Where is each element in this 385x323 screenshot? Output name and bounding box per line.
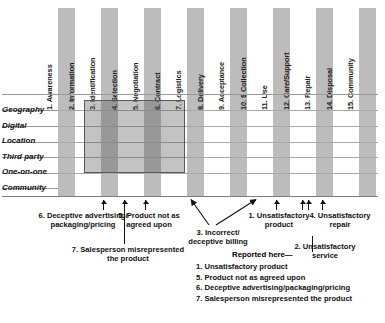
column-label: 2. Information [63, 10, 80, 112]
legend-item: 6. Deceptive advertising/packaging/prici… [196, 283, 382, 294]
column-label: 1. Awareness [41, 10, 58, 112]
column-label: 6. Contract [149, 10, 166, 112]
legend-item: 1. Unsatisfactory product [196, 262, 382, 273]
column-label: 11. Use [256, 10, 273, 112]
row-divider [2, 94, 378, 95]
column-label: 3. Identification [84, 10, 101, 112]
row-label-group: Geography Digital Location Third party O… [2, 102, 58, 196]
legend-item: 5. Product not as agreed upon [196, 273, 382, 284]
legend-item: 7. Salesperson misrepresented the produc… [196, 294, 382, 305]
column-label: 4. Selection [106, 10, 123, 112]
column-label: 7. Logistics [170, 10, 187, 112]
callout-5: 5. Product not as agreed upon [110, 211, 188, 230]
row-label-community: Community [2, 180, 58, 196]
callout-4: 4. Unsatisfactory repair [303, 211, 377, 230]
row-label-geography: Geography [2, 102, 58, 118]
callout-7: 7. Salesperson misrepresented the produc… [48, 245, 208, 264]
reported-legend: 1. Unsatisfactory product 5. Product not… [196, 262, 382, 304]
reported-connector [312, 236, 313, 252]
column-label: 8. Delivery [192, 10, 209, 112]
callout-2: 2. Unsatisfactory service [289, 242, 361, 261]
reported-here-label: Reported here— [232, 250, 293, 259]
callout-arrow-1 [276, 200, 277, 210]
callout-arrow-2b [308, 200, 309, 210]
figure-root: 1. Awareness 2. Information 3. Identific… [0, 0, 385, 323]
matrix-column-15[interactable]: 15. Community [359, 8, 376, 196]
column-label: 5. Negotiation [127, 10, 144, 112]
column-label: 14. Disposal [321, 10, 338, 112]
row-label-third-party: Third party [2, 149, 58, 165]
arrow-3a [191, 200, 209, 226]
row-label-digital: Digital [2, 118, 58, 134]
row-label-one-on-one: One-on-one [2, 164, 58, 180]
column-label: 13. Repair [299, 10, 316, 112]
highlight-region[interactable] [84, 100, 185, 173]
column-label: 12. Care/Support [278, 10, 295, 112]
column-label: 10. $ Collection [235, 10, 252, 112]
row-label-location: Location [2, 133, 58, 149]
column-label: 15. Community [342, 10, 359, 112]
column-label: 9. Acceptance [213, 10, 230, 112]
column-band [359, 8, 376, 196]
callout-arrow-2a [302, 200, 303, 210]
callout-3: 3. Incorrect/ deceptive billing [178, 228, 258, 247]
callout-arrow-4 [322, 200, 323, 210]
